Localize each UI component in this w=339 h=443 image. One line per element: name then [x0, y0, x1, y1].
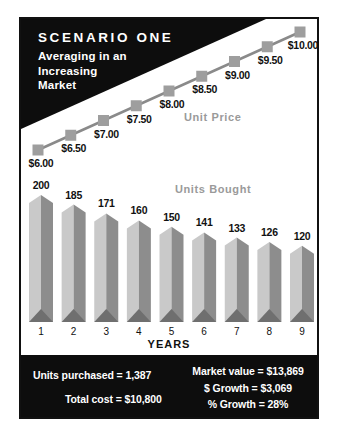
x-tick-label: 7 — [234, 326, 240, 337]
bar-right-face — [106, 213, 118, 322]
price-point-label: $10.00 — [288, 39, 319, 51]
price-point-label: $8.50 — [192, 83, 217, 95]
total-cost-stat: Total cost = $10,800 — [65, 393, 162, 405]
price-marker — [229, 56, 240, 67]
price-marker — [262, 41, 273, 52]
price-marker — [65, 130, 76, 141]
price-marker — [295, 27, 306, 38]
bar-value-label: 160 — [131, 204, 148, 216]
price-point-label: $7.00 — [94, 128, 119, 140]
growth-stats: Market value = $13,869 $ Growth = $3,069… — [183, 363, 313, 413]
bar-value-label: 171 — [98, 197, 115, 209]
price-marker — [196, 71, 207, 82]
bar-value-label: 133 — [228, 222, 245, 234]
dollar-growth-stat: $ Growth = $3,069 — [183, 380, 313, 397]
bar-right-face — [269, 242, 281, 322]
x-tick-label: 6 — [201, 326, 207, 337]
x-tick-label: 3 — [103, 326, 109, 337]
price-point-label: $6.50 — [61, 142, 86, 154]
x-tick-label: 8 — [267, 326, 273, 337]
bar-value-label: 120 — [294, 230, 311, 242]
market-value-stat: Market value = $13,869 — [183, 363, 313, 380]
x-tick-label: 5 — [169, 326, 175, 337]
bar-right-face — [139, 220, 151, 322]
bar-right-face — [302, 246, 314, 322]
price-point-label: $8.00 — [160, 98, 185, 110]
price-point-label: $6.00 — [29, 157, 54, 169]
bar-value-label: 141 — [196, 216, 213, 228]
bar-left-face — [160, 227, 172, 322]
subtitle-line-1: Averaging in an — [38, 49, 173, 64]
subtitle-line-3: Market — [38, 78, 173, 93]
price-point-label: $9.50 — [258, 54, 283, 66]
bar-right-face — [41, 195, 53, 322]
price-marker — [33, 145, 44, 156]
page: $6.00$6.50$7.00$7.50$8.00$8.50$9.00$9.50… — [0, 0, 339, 443]
x-tick-label: 2 — [71, 326, 77, 337]
x-tick-label: 9 — [299, 326, 305, 337]
bar-right-face — [172, 227, 184, 322]
price-point-label: $7.50 — [127, 113, 152, 125]
title-block: SCENARIO ONE Averaging in an Increasing … — [38, 30, 173, 93]
price-marker — [131, 100, 142, 111]
bar-left-face — [290, 246, 302, 322]
x-tick-label: 1 — [38, 326, 44, 337]
bar-value-label: 126 — [261, 226, 278, 238]
bar-left-face — [192, 232, 204, 322]
bar-left-face — [62, 205, 74, 322]
bar-left-face — [94, 213, 106, 322]
bar-right-face — [237, 238, 249, 322]
bar-value-label: 150 — [163, 211, 180, 223]
bar-value-label: 200 — [33, 179, 50, 191]
bar-right-face — [74, 205, 86, 322]
units-purchased-stat: Units purchased = 1,387 — [33, 369, 151, 381]
price-marker — [98, 115, 109, 126]
subtitle-line-2: Increasing — [38, 64, 173, 79]
chart-panel-inner: $6.00$6.50$7.00$7.50$8.00$8.50$9.00$9.50… — [21, 19, 317, 417]
summary-footer: Units purchased = 1,387 Total cost = $10… — [21, 355, 317, 417]
bar-value-label: 185 — [65, 189, 82, 201]
pct-growth-stat: % Growth = 28% — [183, 396, 313, 413]
bar-right-face — [204, 232, 216, 322]
chart-panel: $6.00$6.50$7.00$7.50$8.00$8.50$9.00$9.50… — [19, 17, 319, 419]
unit-price-series-label: Unit Price — [184, 111, 241, 123]
bar-left-face — [257, 242, 269, 322]
bar-left-face — [225, 238, 237, 322]
page-title: SCENARIO ONE — [38, 30, 173, 45]
x-axis-title: YEARS — [21, 338, 317, 350]
bar-left-face — [127, 220, 139, 322]
bar-left-face — [29, 195, 41, 322]
x-tick-label: 4 — [136, 326, 142, 337]
page-subtitle: Averaging in an Increasing Market — [38, 49, 173, 93]
units-bought-series-label: Units Bought — [175, 183, 251, 195]
price-point-label: $9.00 — [225, 69, 250, 81]
